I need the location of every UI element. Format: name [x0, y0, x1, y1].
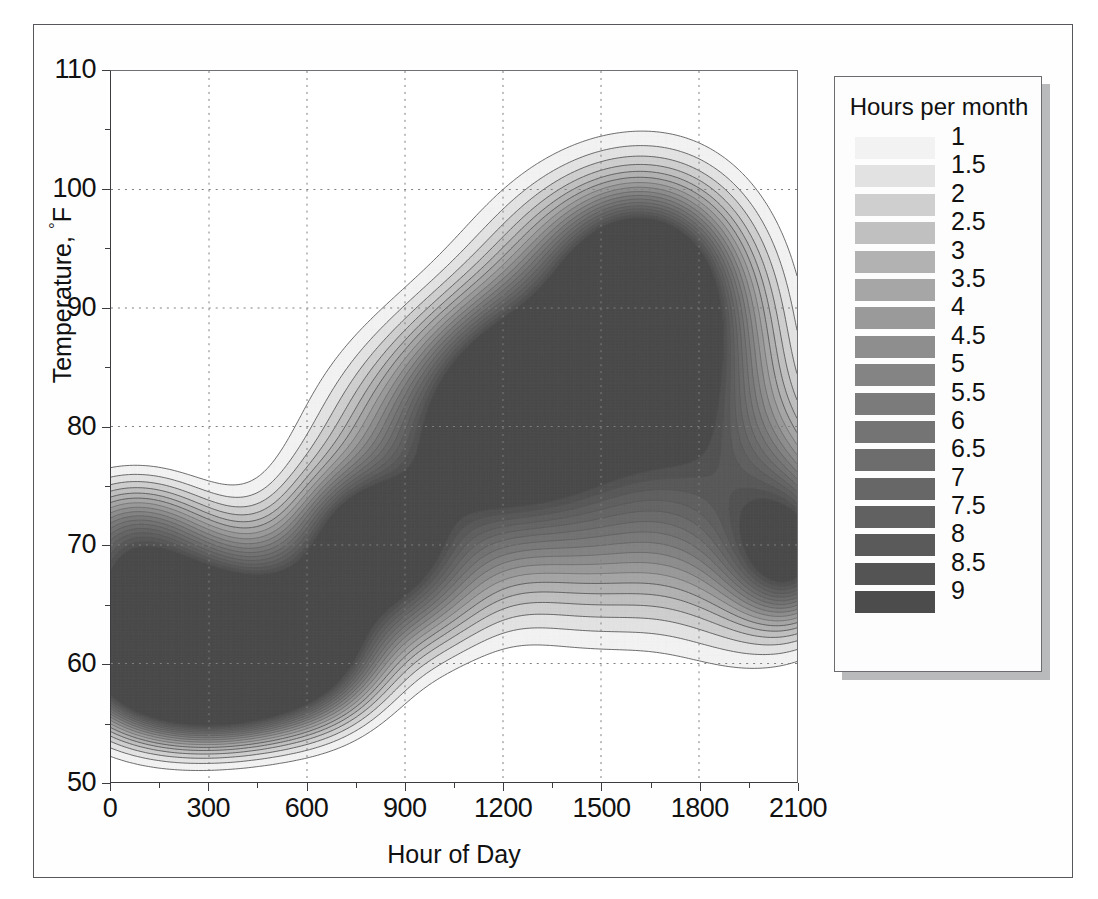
y-tick-label: 110	[30, 56, 96, 83]
contour-figure: 5060708090100110 03006009001200150018002…	[0, 0, 1098, 899]
legend-swatch	[855, 534, 935, 556]
legend-swatch	[855, 336, 935, 358]
y-axis-unit: F	[48, 207, 76, 222]
x-tick-minor	[257, 783, 258, 788]
legend-swatch	[855, 393, 935, 415]
x-tick-label: 2100	[743, 795, 853, 822]
legend-swatch	[855, 137, 935, 159]
x-tick-major	[110, 783, 111, 791]
legend-label: 2.5	[951, 209, 986, 234]
legend-title: Hours per month	[835, 93, 1043, 121]
x-tick-minor	[159, 783, 160, 788]
legend-entries: 11.522.533.544.555.566.577.588.59	[855, 135, 1025, 655]
y-tick-major	[102, 308, 110, 309]
y-tick-label: 70	[30, 531, 96, 558]
degree-icon: °	[48, 222, 76, 229]
y-tick-major	[102, 189, 110, 190]
legend-swatch	[855, 194, 935, 216]
legend-row: 1.5	[855, 163, 1025, 191]
x-tick-major	[503, 783, 504, 791]
legend-row: 1	[855, 135, 1025, 163]
legend-swatch	[855, 251, 935, 273]
legend-label: 9	[951, 578, 965, 603]
legend-label: 6	[951, 408, 965, 433]
legend-label: 1.5	[951, 152, 986, 177]
legend-label: 3	[951, 238, 965, 263]
legend-box: Hours per month 11.522.533.544.555.566.5…	[834, 76, 1042, 672]
y-tick-major	[102, 70, 110, 71]
legend-row: 3	[855, 249, 1025, 277]
legend-swatch	[855, 591, 935, 613]
x-tick-label: 300	[153, 795, 263, 822]
x-tick-major	[405, 783, 406, 791]
y-tick-major	[102, 545, 110, 546]
legend-label: 5	[951, 351, 965, 376]
legend-row: 8.5	[855, 561, 1025, 589]
y-tick-minor	[105, 486, 110, 487]
legend-label: 7	[951, 465, 965, 490]
legend-swatch	[855, 563, 935, 585]
y-axis-title-text: Temperature,	[48, 229, 76, 383]
legend-label: 5.5	[951, 380, 986, 405]
legend-label: 1	[951, 124, 965, 149]
legend-swatch	[855, 279, 935, 301]
x-tick-label: 1500	[546, 795, 656, 822]
legend-row: 7.5	[855, 504, 1025, 532]
y-tick-minor	[105, 129, 110, 130]
y-tick-label: 60	[30, 650, 96, 677]
y-tick-major	[102, 664, 110, 665]
legend-label: 6.5	[951, 436, 986, 461]
legend-swatch	[855, 421, 935, 443]
legend-label: 8.5	[951, 550, 986, 575]
legend-swatch	[855, 478, 935, 500]
legend-row: 9	[855, 589, 1025, 617]
y-tick-major	[102, 783, 110, 784]
legend-row: 2.5	[855, 220, 1025, 248]
y-tick-minor	[105, 724, 110, 725]
legend-label: 3.5	[951, 266, 986, 291]
x-tick-label: 1200	[448, 795, 558, 822]
legend-label: 8	[951, 521, 965, 546]
y-tick-minor	[105, 605, 110, 606]
legend-swatch	[855, 506, 935, 528]
x-tick-major	[700, 783, 701, 791]
y-tick-label: 50	[30, 769, 96, 796]
legend-row: 4	[855, 305, 1025, 333]
y-axis-title-wrapper: Temperature, °F	[62, 280, 63, 281]
x-tick-label: 600	[252, 795, 362, 822]
legend-label: 4	[951, 294, 965, 319]
x-tick-label: 0	[55, 795, 165, 822]
x-tick-minor	[749, 783, 750, 788]
x-tick-minor	[356, 783, 357, 788]
legend-row: 2	[855, 192, 1025, 220]
legend-row: 6.5	[855, 447, 1025, 475]
y-tick-major	[102, 427, 110, 428]
x-tick-minor	[454, 783, 455, 788]
legend-swatch	[855, 307, 935, 329]
legend-row: 3.5	[855, 277, 1025, 305]
legend-label: 4.5	[951, 323, 986, 348]
legend-row: 6	[855, 419, 1025, 447]
plot-area	[110, 70, 798, 783]
x-tick-label: 1800	[645, 795, 755, 822]
y-tick-minor	[105, 248, 110, 249]
x-axis-title: Hour of Day	[110, 840, 798, 869]
x-tick-major	[208, 783, 209, 791]
legend-label: 7.5	[951, 493, 986, 518]
legend-row: 4.5	[855, 334, 1025, 362]
contour-plot-canvas	[111, 71, 797, 782]
x-tick-major	[307, 783, 308, 791]
legend-label: 2	[951, 181, 965, 206]
y-tick-minor	[105, 367, 110, 368]
y-axis-title: Temperature, °F	[47, 145, 77, 445]
x-tick-major	[601, 783, 602, 791]
legend-swatch	[855, 165, 935, 187]
legend-row: 5	[855, 362, 1025, 390]
x-tick-major	[798, 783, 799, 791]
legend-row: 5.5	[855, 391, 1025, 419]
legend-row: 8	[855, 532, 1025, 560]
x-tick-minor	[651, 783, 652, 788]
x-tick-minor	[552, 783, 553, 788]
legend-swatch	[855, 222, 935, 244]
legend-row: 7	[855, 476, 1025, 504]
